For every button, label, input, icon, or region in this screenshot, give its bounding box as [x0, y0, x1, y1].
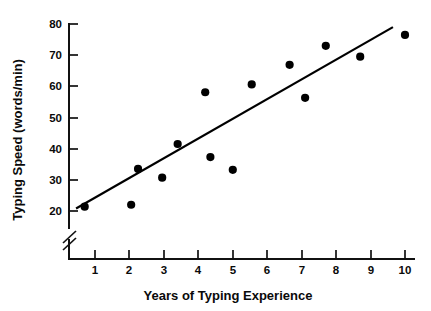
x-tick-label: 8	[333, 264, 340, 276]
data-point-marker	[201, 88, 209, 96]
data-points-group	[81, 31, 410, 211]
x-tick-label: 10	[399, 264, 412, 276]
x-axis-title: Years of Typing Experience	[144, 288, 313, 303]
data-point-marker	[322, 42, 330, 50]
y-tick-label: 20	[49, 205, 62, 217]
data-point-marker	[229, 166, 237, 174]
data-point-marker	[248, 80, 256, 88]
y-tick-label: 40	[49, 143, 62, 155]
data-point-marker	[401, 31, 409, 39]
x-tick-label: 2	[126, 264, 132, 276]
data-point-marker	[127, 201, 135, 209]
y-tick-label: 70	[49, 49, 62, 61]
x-tick-labels: 1 2 3 4 5 6 7 8 9 10	[92, 264, 412, 276]
data-point-marker	[174, 140, 182, 148]
scatter-chart-figure: Typing Speed (words/min) 80 70 60 50 40 …	[0, 0, 431, 311]
x-tick-label: 6	[264, 264, 270, 276]
x-tick-label: 4	[195, 264, 202, 276]
y-tick-marks	[69, 24, 78, 211]
data-point-marker	[158, 174, 166, 182]
y-tick-label: 60	[49, 80, 62, 92]
data-point-marker	[206, 153, 214, 161]
y-tick-label: 50	[49, 112, 62, 124]
data-point-marker	[301, 94, 309, 102]
x-tick-label: 7	[299, 264, 305, 276]
x-tick-marks	[95, 250, 405, 259]
y-tick-label: 80	[49, 18, 62, 30]
regression-trend-line	[76, 27, 393, 208]
y-axis-title: Typing Speed (words/min)	[10, 59, 25, 221]
data-point-marker	[356, 53, 364, 61]
x-tick-label: 9	[368, 264, 374, 276]
y-tick-labels: 80 70 60 50 40 30 20	[49, 18, 62, 217]
data-point-marker	[286, 61, 294, 69]
plot-canvas: Typing Speed (words/min) 80 70 60 50 40 …	[0, 0, 431, 311]
x-tick-label: 1	[92, 264, 99, 276]
x-tick-label: 5	[230, 264, 237, 276]
data-point-marker	[81, 203, 89, 211]
data-point-marker	[134, 165, 142, 173]
x-tick-label: 3	[161, 264, 167, 276]
y-tick-label: 30	[49, 174, 62, 186]
